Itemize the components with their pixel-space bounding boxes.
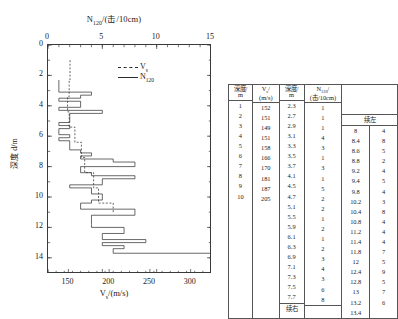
y-tick-2: 2: [21, 69, 43, 78]
continued-n120-cell: 4: [370, 217, 397, 227]
table-row: 84: [342, 126, 397, 137]
table-col-vs: Vs/(m/s) 152151149151158166170181187205: [252, 85, 279, 319]
depth-mid-cell: 5.1: [280, 202, 304, 212]
depth-mid-cell: 3.1: [280, 131, 304, 141]
continued-n120-cell: 3: [370, 197, 397, 207]
depth-left-cell: 9: [229, 182, 252, 192]
col-continued-left-body: 848.488.658.829.249.459.8410.2310.4810.8…: [342, 126, 397, 318]
n120-mid-cell: 1: [305, 214, 342, 224]
table-row: 9: [229, 182, 252, 192]
table-row: 6: [229, 151, 252, 161]
continued-depth-cell: 9.8: [342, 187, 369, 197]
continued-depth-cell: 11.2: [342, 227, 369, 237]
table-row: 6.9: [280, 252, 304, 262]
depth-mid-cell: 7.5: [280, 283, 304, 293]
continued-depth-cell: 10.2: [342, 197, 369, 207]
vs-cell: 166: [253, 154, 279, 164]
n120-mid-cell: 2: [305, 204, 342, 214]
table-row: 6.1: [280, 232, 304, 242]
continued-n120-cell: 9: [370, 267, 397, 277]
continued-n120-cell: 4: [370, 187, 397, 197]
table-row: 2: [305, 194, 342, 204]
depth-mid-cell: 7.3: [280, 272, 304, 282]
vs-cell: 152: [253, 103, 279, 114]
subtable-vs: Vs/(m/s) 152151149151158166170181187205: [253, 85, 279, 204]
continued-depth-cell: 8.6: [342, 146, 369, 156]
table-row: 11.87: [342, 247, 397, 257]
table-row: 3: [305, 254, 342, 264]
header-n120: N120/(击/10cm): [305, 85, 342, 103]
table-row: 1: [305, 103, 342, 114]
depth-mid-cell: 4.5: [280, 182, 304, 192]
legend-swatch-solid: [118, 74, 138, 80]
table-row: 4: [305, 265, 342, 275]
bottom-axis-label: Vs/(m/s): [0, 288, 228, 300]
vs-cell: 151: [253, 133, 279, 143]
y-tick-4: 4: [21, 100, 43, 109]
table-row: 8.65: [342, 146, 397, 156]
vs-cell: 158: [253, 143, 279, 153]
col-n120-mid-body: 11143131522121234368: [305, 103, 342, 306]
table-row: 3.3: [280, 141, 304, 151]
table-row: 9.84: [342, 187, 397, 197]
depth-mid-cell: 5.9: [280, 222, 304, 232]
series-N120: [59, 80, 211, 253]
n120-mid-cell: 3: [305, 143, 342, 153]
table-row: 10: [229, 192, 252, 202]
n120-mid-cell: 3: [305, 275, 342, 285]
table-row: 152: [253, 103, 279, 114]
table-row: 2.9: [280, 121, 304, 131]
table-row: 5: [229, 141, 252, 151]
continued-n120-cell: 5: [370, 146, 397, 156]
continued-n120-cell: 7: [370, 288, 397, 298]
depth-mid-cell: 3.5: [280, 151, 304, 161]
bottom-tick-300: 300: [179, 277, 201, 286]
table-col-depth-left: 深度/m 12345678910: [229, 85, 253, 319]
col-depth-left-body: 12345678910: [229, 100, 252, 201]
continued-n120-cell: 7: [370, 247, 397, 257]
legend-label-n120: N120: [140, 72, 154, 81]
continued-left-spacer: [342, 85, 397, 115]
continued-depth-cell: 8: [342, 126, 369, 137]
y-tick-6: 6: [21, 130, 43, 139]
table-row: 151: [253, 133, 279, 143]
table-row: 205: [253, 194, 279, 204]
depth-mid-cell: 6.1: [280, 232, 304, 242]
depth-left-cell: 2: [229, 111, 252, 121]
y-tick-14: 14: [21, 252, 43, 261]
continued-n120-cell: 4: [370, 237, 397, 247]
continued-n120-cell: 4: [370, 166, 397, 176]
depth-mid-cell: 4.1: [280, 171, 304, 181]
top-tick-10: 10: [145, 32, 167, 41]
continued-n120-cell: [370, 308, 397, 318]
table-row: 4.1: [280, 171, 304, 181]
table-row: 5.1: [280, 202, 304, 212]
depth-mid-cell: 2.7: [280, 111, 304, 121]
n120-mid-cell: 2: [305, 224, 342, 234]
table-row: 2.3: [280, 100, 304, 111]
table-col-continued-left: 续左 848.488.658.829.249.459.8410.2310.481…: [342, 85, 398, 319]
continued-depth-cell: 12.4: [342, 267, 369, 277]
table-row: 7.7: [280, 293, 304, 304]
table-row: 2: [305, 224, 342, 234]
depth-mid-cell: 3.7: [280, 161, 304, 171]
n120-mid-cell: 3: [305, 254, 342, 264]
table-row: 8: [305, 295, 342, 306]
bottom-tick-200: 200: [97, 277, 119, 286]
top-tick-15: 15: [199, 32, 221, 41]
y-tick-12: 12: [21, 221, 43, 230]
depth-left-cell: 1: [229, 100, 252, 111]
table-row: 187: [253, 184, 279, 194]
subtable-n120-mid: N120/(击/10cm) 11143131522121234368: [305, 85, 342, 316]
table-row: 7.3: [280, 272, 304, 282]
table-row: 10.23: [342, 197, 397, 207]
depth-mid-cell: 2.3: [280, 100, 304, 111]
col-vs-body: 152151149151158166170181187205: [253, 103, 279, 204]
depth-mid-cell: 6.3: [280, 242, 304, 252]
subtable-continued-left: 续左 848.488.658.829.249.459.8410.2310.481…: [342, 85, 397, 318]
table-row: 3.7: [280, 161, 304, 171]
depth-left-cell: 4: [229, 131, 252, 141]
n120-mid-cell: 6: [305, 285, 342, 295]
depth-left-cell: 5: [229, 141, 252, 151]
continued-depth-cell: 8.8: [342, 156, 369, 166]
